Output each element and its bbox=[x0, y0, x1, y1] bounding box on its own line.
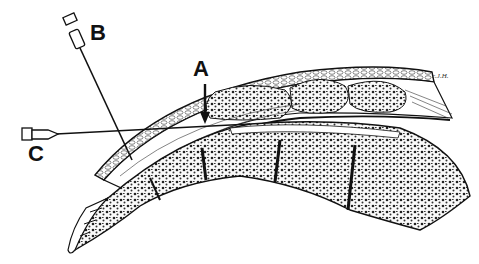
label-a: A bbox=[193, 58, 209, 80]
spinous-process bbox=[290, 79, 348, 113]
spine-section-drawing bbox=[0, 0, 479, 264]
spinous-process bbox=[206, 85, 291, 120]
illustration: A B C c.J.H. bbox=[0, 0, 479, 264]
artist-signature: c.J.H. bbox=[432, 72, 449, 80]
label-c: C bbox=[28, 143, 44, 165]
label-b: B bbox=[90, 22, 106, 44]
